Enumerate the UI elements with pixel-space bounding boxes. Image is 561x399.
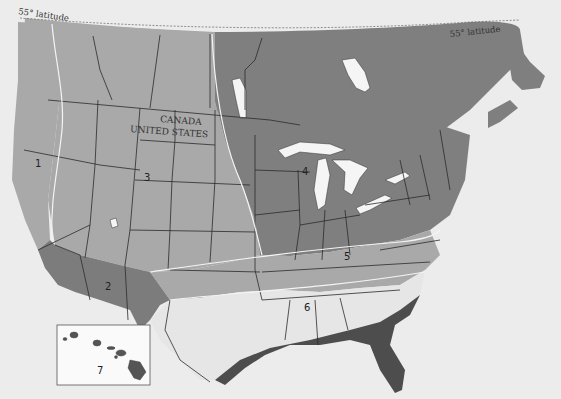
zone-6-label: 6 [304, 302, 310, 313]
zone-map: 55° latitude 55° latitude CANADA UNITED … [0, 0, 561, 399]
hawaii-island-molokai [107, 347, 115, 350]
hawaii-island-maui [116, 350, 126, 356]
hawaii-island-kauai [70, 332, 78, 338]
hawaii-island-niihau [63, 338, 67, 341]
hawaii-island-oahu [93, 340, 101, 346]
zone-4-label: 4 [302, 166, 308, 177]
hawaii-inset: 7 [57, 325, 150, 385]
zone-1-label: 1 [35, 158, 41, 169]
zone-2-label: 2 [105, 281, 111, 292]
zone-5-label: 5 [344, 251, 350, 262]
nova-scotia [488, 100, 518, 128]
hawaii-island-lanai [115, 356, 118, 359]
zone-3-label: 3 [144, 172, 150, 183]
zone-7-label: 7 [97, 365, 103, 376]
newfoundland [507, 48, 545, 90]
